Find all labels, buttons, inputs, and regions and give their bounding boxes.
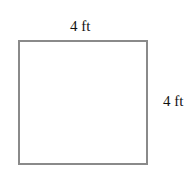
top-side-label: 4 ft	[70, 18, 90, 35]
square-shape	[18, 40, 148, 165]
right-side-label: 4 ft	[163, 93, 183, 110]
